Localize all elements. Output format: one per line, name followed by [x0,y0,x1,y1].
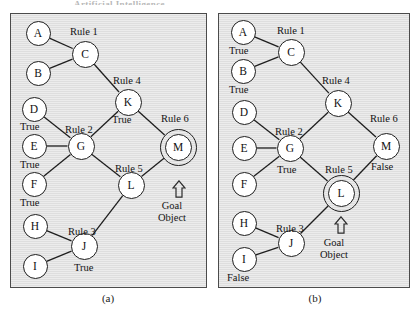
graph-node-label: J [289,237,293,249]
graph-node-a[interactable]: A [231,20,256,45]
truth-value-label: True [229,84,248,95]
caption-panel-a: (a) [88,292,128,304]
rule-label: Rule 5 [325,164,353,175]
graph-node-label: C [81,48,89,60]
graph-node-label: A [34,27,42,39]
truth-value-label: True [112,114,131,125]
graph-node-k[interactable]: K [115,89,142,116]
graph-node-d[interactable]: D [232,100,257,125]
rule-label: Rule 1 [277,25,305,36]
truth-value-label: True [20,159,39,170]
goal-object-line-2: Object [320,249,348,261]
graph-node-f[interactable]: F [232,172,257,197]
graph-node-label: G [286,142,294,154]
truth-value-label: True [229,45,248,56]
graph-node-label: H [240,217,248,229]
goal-object-line-2: Object [158,212,186,224]
rule-label: Rule 5 [115,163,143,174]
truth-value-label: True [20,121,39,132]
graph-node-h[interactable]: H [232,211,257,236]
graph-node-l[interactable]: L [118,172,145,199]
rule-label: Rule 2 [65,124,93,135]
graph-node-label: H [31,220,39,232]
graph-node-label: A [239,26,247,38]
graph-node-label: M [173,141,183,153]
graph-node-label: D [240,106,248,118]
figure-root: Artificial Intelligence ABCDEFGHIJKLMABC… [0,0,417,311]
graph-node-label: E [240,142,247,154]
truth-value-label: True [277,164,296,175]
graph-node-b[interactable]: B [231,59,256,84]
graph-node-c[interactable]: C [278,39,305,66]
rule-label: Rule 2 [275,126,303,137]
goal-object-caption: GoalObject [320,237,348,260]
graph-node-i[interactable]: I [23,254,48,279]
graph-node-label: E [30,140,37,152]
graph-node-a[interactable]: A [26,21,51,46]
graph-node-label: B [239,65,247,77]
rule-label: Rule 1 [70,26,98,37]
graph-node-label: I [33,260,37,272]
graph-node-label: G [77,140,85,152]
graph-node-label: D [30,103,38,115]
graph-node-g[interactable]: G [277,135,304,162]
graph-node-label: L [127,179,134,191]
truth-value-label: True [20,197,39,208]
graph-node-k[interactable]: K [325,90,352,117]
graph-node-label: F [241,178,247,190]
graph-node-f[interactable]: F [22,172,47,197]
rule-label: Rule 3 [68,226,96,237]
graph-node-label: L [337,187,344,199]
goal-up-arrow-icon [334,216,348,234]
graph-node-e[interactable]: E [232,136,257,161]
cropped-header-text: Artificial Intelligence [74,0,194,5]
rule-label: Rule 6 [161,113,189,124]
graph-node-label: F [31,178,37,190]
graph-node-c[interactable]: C [72,41,99,68]
graph-node-e[interactable]: E [22,134,47,159]
rule-label: Rule 4 [322,75,350,86]
graph-node-m[interactable]: M [373,133,400,160]
graph-node-d[interactable]: D [22,97,47,122]
graph-node-b[interactable]: B [26,61,51,86]
truth-value-label: True [74,262,93,273]
caption-panel-b: (b) [295,292,335,304]
graph-node-g[interactable]: G [68,133,95,160]
goal-object-caption: GoalObject [158,200,186,223]
goal-up-arrow-icon [172,180,186,198]
graph-node-label: C [287,46,295,58]
truth-value-label: False [371,161,393,172]
graph-node-label: J [82,240,86,252]
rule-label: Rule 3 [276,223,304,234]
graph-node-i[interactable]: I [232,247,257,272]
graph-node-label: K [334,97,342,109]
graph-node-label: K [124,96,132,108]
graph-node-label: I [242,253,246,265]
graph-node-label: B [34,67,42,79]
graph-node-m[interactable]: M [165,134,192,161]
graph-node-l[interactable]: L [328,180,355,207]
graph-node-label: M [381,140,391,152]
rule-label: Rule 6 [370,113,398,124]
rule-label: Rule 4 [113,75,141,86]
goal-object-line-1: Goal [158,200,186,212]
truth-value-label: False [227,272,249,283]
graph-node-h[interactable]: H [23,214,48,239]
goal-object-line-1: Goal [320,237,348,249]
